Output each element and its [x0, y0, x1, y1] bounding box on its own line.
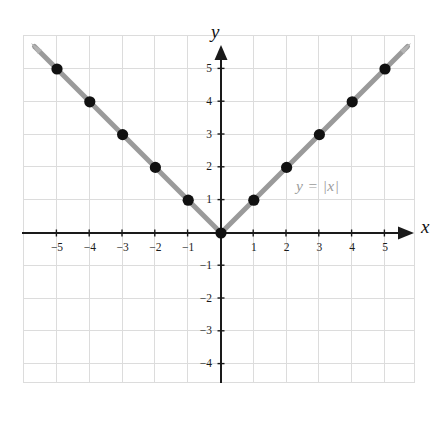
x-tick-label: −4 — [84, 242, 96, 254]
x-tick-label: −3 — [116, 242, 128, 254]
graph-figure: y x y = |x| −5−4−3−2−112345 54321−1−2−3−… — [0, 0, 447, 425]
x-tick-label: 4 — [349, 242, 355, 254]
equation-annotation: y = |x| — [296, 177, 339, 195]
y-tick-label: 4 — [191, 96, 212, 108]
data-point — [379, 63, 390, 74]
data-point — [150, 162, 161, 173]
x-axis-arrowhead — [398, 227, 414, 240]
y-tick-label: −4 — [191, 358, 212, 370]
x-tick-label: −5 — [51, 242, 63, 254]
data-point — [347, 96, 358, 107]
data-point — [248, 195, 259, 206]
x-tick-label: 1 — [251, 242, 257, 254]
y-tick-label: −3 — [191, 326, 212, 338]
data-point — [215, 227, 226, 238]
y-tick-label: 1 — [191, 194, 212, 206]
x-tick-label: 2 — [284, 242, 290, 254]
coordinate-plane-svg — [0, 0, 447, 425]
y-tick-label: 5 — [191, 63, 212, 75]
data-point — [117, 129, 128, 140]
y-tick-label: −1 — [191, 260, 212, 272]
data-point — [51, 63, 62, 74]
x-tick-label: 3 — [317, 242, 323, 254]
x-tick-label: 5 — [382, 242, 388, 254]
y-axis-label: y — [211, 22, 219, 41]
y-tick-label: −2 — [191, 293, 212, 305]
x-tick-label: −2 — [149, 242, 161, 254]
x-axis-label: x — [421, 217, 429, 236]
y-axis-arrowhead — [215, 45, 228, 60]
y-tick-label: 2 — [191, 162, 212, 174]
data-point — [281, 162, 292, 173]
data-point — [84, 96, 95, 107]
y-tick-label: 3 — [191, 129, 212, 141]
x-tick-label: −1 — [182, 242, 194, 254]
data-point — [314, 129, 325, 140]
